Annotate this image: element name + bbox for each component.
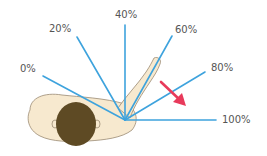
head xyxy=(56,102,96,146)
label-40-percent: 40% xyxy=(115,9,137,20)
line-60 xyxy=(125,36,172,120)
posture-diagram xyxy=(0,0,267,156)
label-0-percent: 0% xyxy=(20,63,36,74)
label-20-percent: 20% xyxy=(49,23,71,34)
diagram-canvas: 0% 20% 40% 60% 80% 100% xyxy=(0,0,267,156)
label-100-percent: 100% xyxy=(222,114,251,125)
label-80-percent: 80% xyxy=(211,62,233,73)
label-60-percent: 60% xyxy=(175,24,197,35)
